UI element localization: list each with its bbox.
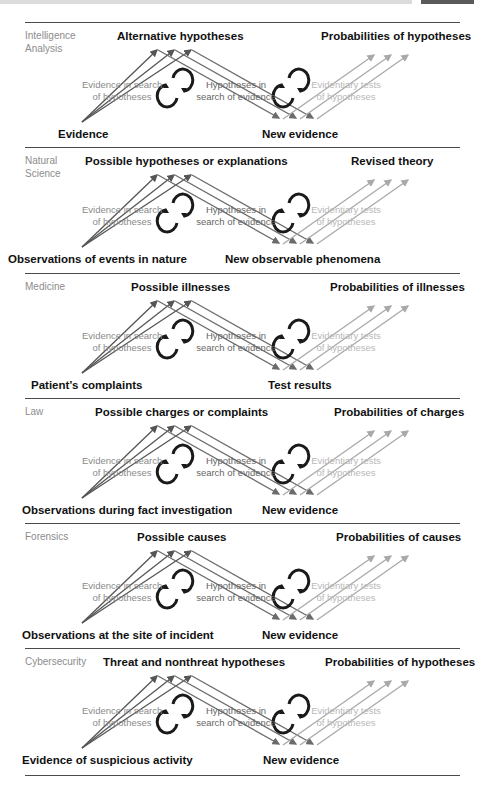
evidence-in-search-of-hypotheses-label: Evidence in search of hypotheses bbox=[82, 204, 162, 228]
domain-label: Cybersecurity bbox=[25, 655, 85, 668]
new-evidence-label: New observable phenomena bbox=[225, 253, 380, 265]
hypotheses-label: Possible illnesses bbox=[131, 281, 230, 293]
evidence-in-search-of-hypotheses-label: Evidence in search of hypotheses bbox=[82, 705, 162, 729]
domain-panel-6: Cybersecurity Threat and nonthreat hypot… bbox=[0, 648, 484, 773]
evidence-in-search-of-hypotheses-label: Evidence in search of hypotheses bbox=[82, 455, 162, 479]
section-divider bbox=[25, 775, 460, 776]
evidence-in-search-of-hypotheses-label: Evidence in search of hypotheses bbox=[82, 330, 162, 354]
hypotheses-in-search-of-evidence-label: Hypotheses in search of evidence bbox=[192, 79, 280, 103]
evidence-in-search-of-hypotheses-label: Evidence in search of hypotheses bbox=[82, 79, 162, 103]
hypotheses-in-search-of-evidence-label: Hypotheses in search of evidence bbox=[192, 705, 280, 729]
domain-label: NaturalScience bbox=[25, 154, 85, 180]
hypotheses-label: Possible causes bbox=[137, 531, 227, 543]
domain-label: Law bbox=[25, 405, 85, 418]
hypotheses-label: Alternative hypotheses bbox=[117, 30, 244, 42]
hypotheses-label: Possible hypotheses or explanations bbox=[85, 155, 288, 167]
probabilities-label: Probabilities of hypotheses bbox=[321, 30, 471, 42]
domain-panel-4: Law Possible charges or complaints Proba… bbox=[0, 398, 484, 523]
domain-panel-3: Medicine Possible illnesses Probabilitie… bbox=[0, 273, 484, 398]
probabilities-label: Revised theory bbox=[351, 155, 433, 167]
hypotheses-in-search-of-evidence-label: Hypotheses in search of evidence bbox=[192, 580, 280, 604]
hypotheses-in-search-of-evidence-label: Hypotheses in search of evidence bbox=[192, 455, 280, 479]
new-evidence-label: New evidence bbox=[262, 128, 338, 140]
cycle-icon-left bbox=[157, 69, 193, 107]
evidentiary-tests-label: Evidentiary tests of hypotheses bbox=[306, 705, 386, 729]
start-evidence-label: Patient’s complaints bbox=[31, 379, 142, 391]
evidentiary-tests-label: Evidentiary tests of hypotheses bbox=[306, 204, 386, 228]
cycle-icon-left bbox=[157, 320, 193, 358]
evidentiary-tests-label: Evidentiary tests of hypotheses bbox=[306, 580, 386, 604]
domain-panel-2: NaturalScience Possible hypotheses or ex… bbox=[0, 147, 484, 272]
page-header-strip bbox=[0, 0, 412, 4]
cycle-icon-left bbox=[157, 695, 193, 733]
domain-label: Forensics bbox=[25, 530, 85, 543]
cycle-icon-left bbox=[157, 570, 193, 608]
start-evidence-label: Observations at the site of incident bbox=[22, 629, 214, 641]
page-header-tab bbox=[421, 0, 474, 4]
new-evidence-label: Test results bbox=[268, 379, 332, 391]
domain-label: Medicine bbox=[25, 280, 85, 293]
new-evidence-label: New evidence bbox=[262, 629, 338, 641]
new-evidence-label: New evidence bbox=[263, 754, 339, 766]
hypotheses-label: Threat and nonthreat hypotheses bbox=[103, 656, 285, 668]
cycle-icon-left bbox=[157, 194, 193, 232]
start-evidence-label: Observations of events in nature bbox=[8, 253, 187, 265]
start-evidence-label: Observations during fact investigation bbox=[22, 504, 232, 516]
probabilities-label: Probabilities of charges bbox=[334, 406, 464, 418]
domain-label: IntelligenceAnalysis bbox=[25, 29, 85, 55]
probabilities-label: Probabilities of hypotheses bbox=[325, 656, 475, 668]
start-evidence-label: Evidence bbox=[58, 128, 109, 140]
probabilities-label: Probabilities of causes bbox=[336, 531, 461, 543]
evidentiary-tests-label: Evidentiary tests of hypotheses bbox=[306, 455, 386, 479]
start-evidence-label: Evidence of suspicious activity bbox=[22, 754, 193, 766]
evidentiary-tests-label: Evidentiary tests of hypotheses bbox=[306, 79, 386, 103]
domain-panel-5: Forensics Possible causes Probabilities … bbox=[0, 523, 484, 648]
hypotheses-in-search-of-evidence-label: Hypotheses in search of evidence bbox=[192, 330, 280, 354]
evidentiary-tests-label: Evidentiary tests of hypotheses bbox=[306, 330, 386, 354]
cycle-icon-left bbox=[157, 445, 193, 483]
probabilities-label: Probabilities of illnesses bbox=[330, 281, 465, 293]
hypotheses-in-search-of-evidence-label: Hypotheses in search of evidence bbox=[192, 204, 280, 228]
evidence-in-search-of-hypotheses-label: Evidence in search of hypotheses bbox=[82, 580, 162, 604]
domain-panel-1: IntelligenceAnalysis Alternative hypothe… bbox=[0, 22, 484, 147]
hypotheses-label: Possible charges or complaints bbox=[95, 406, 268, 418]
new-evidence-label: New evidence bbox=[262, 504, 338, 516]
